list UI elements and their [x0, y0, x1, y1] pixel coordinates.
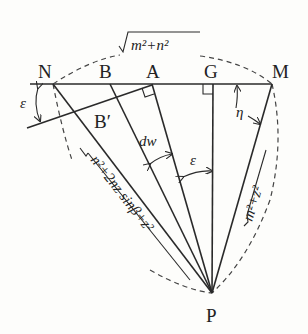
label-N: N [38, 61, 52, 82]
ray-NP [53, 84, 212, 293]
ray-GP [212, 84, 213, 293]
label-epsilon-mid: ε [190, 152, 196, 168]
geometry-diagram: N B A G M B′ P ε dw ε η m²+n² n²+2nz sin… [0, 0, 308, 334]
eta-arrow-bottom [248, 116, 260, 124]
label-length-left: n²+2nz sinβ+z² [88, 152, 158, 235]
right-angle-G [203, 84, 213, 94]
label-M: M [272, 61, 289, 82]
label-G: G [204, 61, 218, 82]
label-B: B [99, 61, 112, 82]
epsilon-left-arrow [36, 88, 40, 121]
line-inclined [27, 85, 152, 128]
right-angle-A [142, 88, 154, 97]
label-B-prime: B′ [94, 111, 111, 132]
label-length-right: m²+z² [240, 183, 266, 222]
label-length-top: m²+n² [131, 37, 169, 53]
dw-arrow [150, 154, 172, 164]
epsilon-mid-arrow [183, 171, 212, 177]
label-dw: dw [139, 133, 157, 149]
label-epsilon-left: ε [20, 95, 26, 111]
label-P: P [206, 305, 217, 326]
sqrt-left [80, 148, 88, 156]
arc-right [212, 84, 278, 293]
label-A: A [146, 61, 160, 82]
label-eta: η [236, 104, 243, 120]
